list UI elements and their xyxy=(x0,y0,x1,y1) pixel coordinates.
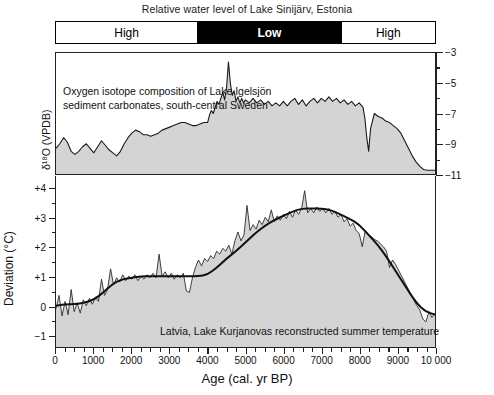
x-tick-label: 2000 xyxy=(120,355,142,366)
x-tick-minor xyxy=(341,348,342,352)
y-tick-label: +3 xyxy=(35,212,46,223)
x-tick-minor xyxy=(65,348,66,352)
oxygen-isotope-y-axis: −3−5−7−9−11 xyxy=(436,52,494,176)
x-axis: 010002000300040005000600070008000900010 … xyxy=(55,348,436,362)
y-tick-minor xyxy=(52,262,56,263)
y-tick-major xyxy=(436,83,443,84)
x-tick-minor xyxy=(293,348,294,352)
y-tick-major xyxy=(49,307,56,308)
oxygen-isotope-plot xyxy=(56,53,435,174)
x-tick-minor xyxy=(198,348,199,352)
y-tick-major xyxy=(436,114,443,115)
y-tick-minor xyxy=(52,232,56,233)
x-tick-major xyxy=(436,348,437,354)
x-tick-minor xyxy=(74,348,75,352)
y-tick-minor xyxy=(436,98,440,99)
y-tick-minor xyxy=(52,321,56,322)
iso-caption-line-2: sediment carbonates, south-central Swede… xyxy=(63,99,271,113)
y-tick-label: −3 xyxy=(445,47,456,58)
y-tick-major xyxy=(49,277,56,278)
x-tick-minor xyxy=(141,348,142,352)
y-tick-major xyxy=(49,188,56,189)
x-tick-major xyxy=(284,348,285,354)
water-level-segment-label: Low xyxy=(257,26,281,40)
y-tick-label: +4 xyxy=(35,182,46,193)
y-tick-label: 0 xyxy=(40,301,46,312)
x-tick-minor xyxy=(303,348,304,352)
summer-temperature-caption: Latvia, Lake Kurjanovas reconstructed su… xyxy=(160,325,439,339)
x-tick-label: 9000 xyxy=(387,355,409,366)
x-tick-minor xyxy=(331,348,332,352)
water-level-segment-low-1: Low xyxy=(197,22,341,43)
x-tick-minor xyxy=(217,348,218,352)
x-tick-major xyxy=(131,348,132,354)
y-tick-label: −7 xyxy=(445,108,456,119)
y-tick-major xyxy=(436,175,443,176)
temperature-y-axis: +4+3+2+10−1 xyxy=(20,176,56,349)
water-level-segment-label: High xyxy=(376,26,401,40)
x-tick-minor xyxy=(427,348,428,352)
x-tick-major xyxy=(169,348,170,354)
x-tick-minor xyxy=(417,348,418,352)
x-tick-label: 4000 xyxy=(196,355,218,366)
figure-root: Relative water level of Lake Sinijärv, E… xyxy=(0,0,494,395)
x-tick-minor xyxy=(265,348,266,352)
y-tick-minor xyxy=(52,292,56,293)
x-tick-minor xyxy=(255,348,256,352)
x-tick-minor xyxy=(179,348,180,352)
x-tick-minor xyxy=(236,348,237,352)
x-tick-major xyxy=(360,348,361,354)
oxygen-isotope-caption: Oxygen isotope composition of Lake Igels… xyxy=(63,85,271,112)
x-tick-minor xyxy=(407,348,408,352)
water-level-segment-label: High xyxy=(114,26,139,40)
x-tick-label: 8000 xyxy=(349,355,371,366)
water-level-segment-high-0: High xyxy=(56,22,197,43)
x-tick-major xyxy=(246,348,247,354)
y-tick-label: +1 xyxy=(35,271,46,282)
y-tick-major xyxy=(436,144,443,145)
x-tick-label: 3000 xyxy=(158,355,180,366)
oxygen-isotope-panel xyxy=(55,52,436,175)
y-tick-major xyxy=(49,218,56,219)
x-axis-title: Age (cal. yr BP) xyxy=(0,371,494,386)
y-tick-minor xyxy=(436,129,440,130)
x-tick-major xyxy=(93,348,94,354)
y-tick-minor xyxy=(436,67,440,68)
y-tick-label: −11 xyxy=(445,170,461,181)
x-tick-minor xyxy=(369,348,370,352)
summer-temperature-plot xyxy=(56,176,435,347)
x-tick-minor xyxy=(274,348,275,352)
x-tick-minor xyxy=(160,348,161,352)
x-tick-minor xyxy=(227,348,228,352)
x-tick-minor xyxy=(188,348,189,352)
x-tick-major xyxy=(322,348,323,354)
iso-caption-line-1: Oxygen isotope composition of Lake Igels… xyxy=(63,85,271,99)
y-tick-label: −1 xyxy=(35,331,46,342)
water-level-segment-high-2: High xyxy=(342,22,436,43)
x-tick-minor xyxy=(150,348,151,352)
x-tick-minor xyxy=(312,348,313,352)
y-tick-major xyxy=(49,336,56,337)
oxygen-isotope-axis-title: δ¹⁸O (VPDB) xyxy=(40,50,56,170)
y-tick-label: +2 xyxy=(35,242,46,253)
x-tick-minor xyxy=(388,348,389,352)
y-tick-label: −9 xyxy=(445,139,456,150)
x-tick-label: 10 000 xyxy=(421,355,452,366)
x-tick-major xyxy=(55,348,56,354)
x-tick-minor xyxy=(122,348,123,352)
x-tick-major xyxy=(398,348,399,354)
y-tick-label: −5 xyxy=(445,77,456,88)
y-tick-minor xyxy=(52,203,56,204)
x-tick-label: 1000 xyxy=(82,355,104,366)
temperature-axis-title: Deviation (°C) xyxy=(2,231,16,306)
x-tick-minor xyxy=(103,348,104,352)
x-tick-minor xyxy=(379,348,380,352)
y-tick-major xyxy=(436,52,443,53)
x-tick-minor xyxy=(350,348,351,352)
x-tick-label: 5000 xyxy=(234,355,256,366)
x-tick-label: 7000 xyxy=(311,355,333,366)
y-tick-major xyxy=(49,247,56,248)
y-tick-minor xyxy=(436,160,440,161)
figure-title: Relative water level of Lake Sinijärv, E… xyxy=(0,3,494,15)
summer-temperature-panel xyxy=(55,176,436,348)
